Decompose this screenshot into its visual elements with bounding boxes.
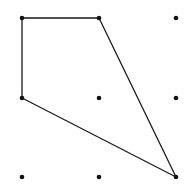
grid-dot: [97, 96, 102, 101]
grid-dots: [20, 16, 179, 180]
grid-dot: [174, 16, 179, 21]
grid-dot: [97, 175, 102, 180]
grid-dot: [97, 16, 102, 21]
grid-dot: [20, 16, 25, 21]
grid-dot: [20, 96, 25, 101]
grid-dot: [20, 175, 25, 180]
grid-dot: [174, 96, 179, 101]
grid-dot: [174, 175, 179, 180]
dot-grid-diagram: [0, 0, 184, 188]
